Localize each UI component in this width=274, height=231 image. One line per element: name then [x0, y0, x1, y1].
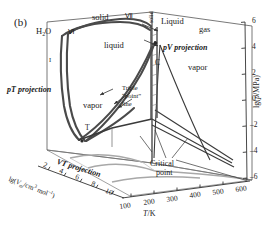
panel-label: (b) — [14, 17, 27, 28]
region-vapor-pv-label: vapor — [188, 63, 207, 72]
region-ice-vii-label: Ⅶ — [125, 13, 133, 20]
t-tick-200: 200 — [143, 197, 155, 206]
p-tick-2: 2 — [252, 69, 256, 77]
t-tick-400: 400 — [189, 190, 201, 199]
triple-point-t-label: T — [85, 124, 90, 132]
pressure-axis — [241, 22, 247, 180]
region-liquid-pv-label: Liquid — [161, 17, 184, 26]
region-gas-label: gas — [199, 25, 210, 34]
region-vapor-label: vapor — [83, 101, 102, 110]
temperature-axis-title: T/K — [143, 210, 155, 218]
region-ice-vi-label: Ⅵ — [68, 29, 74, 36]
p-tick-m6: –6 — [250, 173, 258, 181]
region-solid-vertical-label: solid — [148, 11, 154, 23]
triple-line-label-2: “point” — [122, 93, 141, 100]
triple-line-label-1: Triple — [122, 85, 138, 92]
critical-point-c-label: C — [155, 59, 160, 67]
t-tick-100: 100 — [119, 201, 131, 210]
region-ice-i-label: I — [49, 57, 51, 64]
pv-projection-plane — [152, 12, 252, 180]
p-tick-4: 4 — [252, 43, 256, 51]
t-tick-300: 300 — [166, 194, 178, 203]
p-tick-m2: –2 — [250, 121, 258, 129]
figure-panel-b: (b) H2O Ⅵ solid Ⅶ I liquid vapor T pT pr… — [0, 0, 274, 231]
point-markers — [80, 41, 157, 142]
pv-projection-label: pV projection — [163, 44, 208, 52]
temperature-axis — [122, 179, 250, 199]
phase-surface-boundaries — [61, 19, 155, 141]
critical-point-label-2: point — [156, 169, 172, 177]
region-liquid-label: liquid — [104, 41, 124, 50]
substance-label: H2O — [36, 27, 51, 36]
pressure-axis-title: lg(p/MPa) — [253, 75, 261, 108]
p-tick-0: 0 — [252, 95, 256, 103]
t-tick-500: 500 — [212, 187, 224, 196]
p-tick-6: 6 — [252, 17, 256, 25]
critical-point-label-1: Critical — [150, 160, 174, 168]
t-tick-600: 600 — [235, 184, 247, 193]
p-tick-m4: –4 — [250, 147, 258, 155]
pt-projection-label: pT projection — [7, 86, 51, 94]
region-solid-label: solid — [92, 13, 109, 22]
triple-line-label-3: line — [122, 101, 132, 108]
